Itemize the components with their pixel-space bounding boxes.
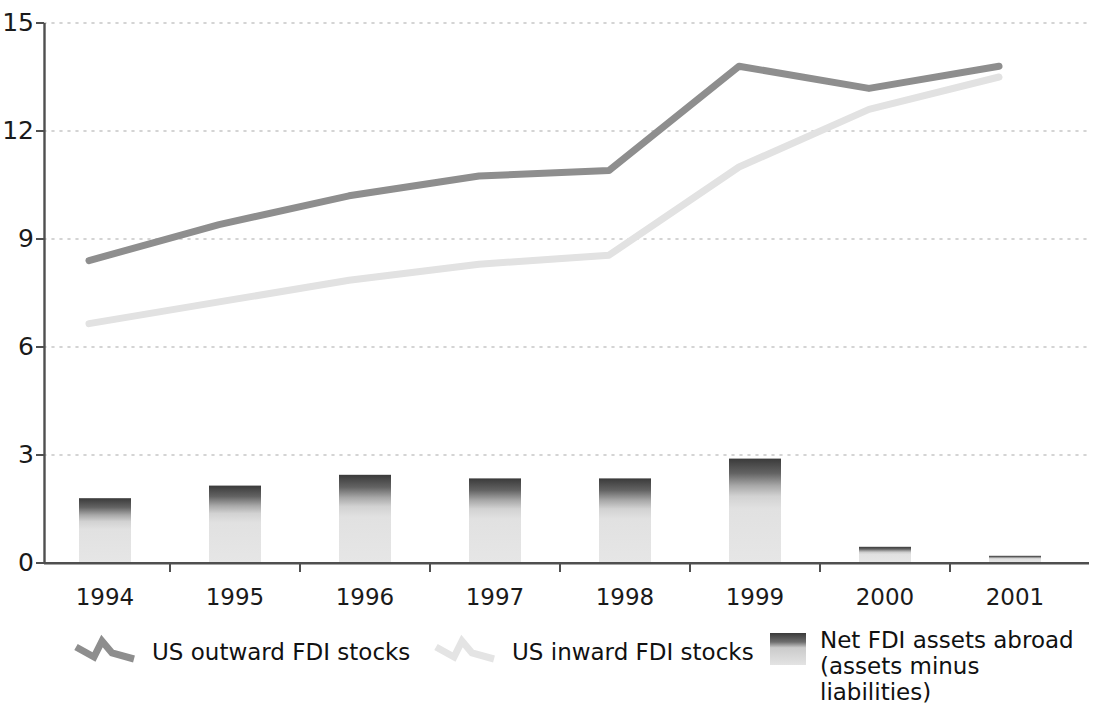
legend-item-us-outward-fdi-stocks: US outward FDI stocks bbox=[72, 633, 410, 669]
bar-swatch-icon bbox=[770, 633, 806, 669]
line-us-inward-fdi-stocks bbox=[89, 77, 999, 324]
axis-lines bbox=[44, 23, 1089, 563]
x-tick-label-1996: 1996 bbox=[310, 586, 420, 609]
zigzag-line-light-icon bbox=[432, 633, 498, 669]
bar-series-net-fdi-assets bbox=[79, 459, 1041, 563]
bar-1997 bbox=[469, 478, 521, 563]
chart-legend: US outward FDI stocks US inward FDI stoc… bbox=[0, 627, 1093, 690]
legend-label-net-fdi-assets-abroad: Net FDI assets abroad (assets minus liab… bbox=[820, 627, 1093, 705]
x-tick-label-1995: 1995 bbox=[180, 586, 290, 609]
line-us-outward-fdi-stocks bbox=[89, 66, 999, 260]
legend-label-us-inward-fdi-stocks: US inward FDI stocks bbox=[512, 633, 754, 665]
bar-1998 bbox=[599, 478, 651, 563]
y-tick-label-12: 12 bbox=[0, 118, 34, 143]
bar-1999 bbox=[729, 459, 781, 563]
legend-item-net-fdi-assets-abroad: Net FDI assets abroad (assets minus liab… bbox=[770, 627, 1093, 705]
x-tick-label-1994: 1994 bbox=[50, 586, 160, 609]
y-tick-label-0: 0 bbox=[0, 550, 34, 575]
gridlines bbox=[44, 23, 1089, 455]
y-axis-ticks bbox=[36, 23, 44, 563]
bar-1996 bbox=[339, 475, 391, 563]
legend-label-us-outward-fdi-stocks: US outward FDI stocks bbox=[152, 633, 410, 665]
x-tick-label-1997: 1997 bbox=[440, 586, 550, 609]
y-tick-label-15: 15 bbox=[0, 10, 34, 35]
zigzag-line-dark-icon bbox=[72, 633, 138, 669]
bar-2000 bbox=[859, 547, 911, 563]
x-tick-label-2001: 2001 bbox=[960, 586, 1070, 609]
y-tick-label-3: 3 bbox=[0, 442, 34, 467]
y-tick-label-6: 6 bbox=[0, 334, 34, 359]
y-tick-label-9: 9 bbox=[0, 226, 34, 251]
bar-2001 bbox=[989, 556, 1041, 563]
x-tick-label-1998: 1998 bbox=[570, 586, 680, 609]
bar-1994 bbox=[79, 498, 131, 563]
x-tick-label-2000: 2000 bbox=[830, 586, 940, 609]
legend-item-us-inward-fdi-stocks: US inward FDI stocks bbox=[432, 633, 754, 669]
bar-1995 bbox=[209, 486, 261, 563]
x-tick-label-1999: 1999 bbox=[700, 586, 810, 609]
